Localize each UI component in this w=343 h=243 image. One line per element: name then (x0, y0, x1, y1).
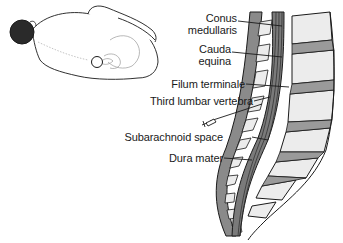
label-third-lumbar-vertebra: Third lumbar vertebra (150, 95, 253, 107)
label-cauda-equina: Cauda equina (199, 43, 231, 67)
label-cauda-line1: Cauda (199, 43, 231, 55)
lumbar-puncture-diagram: Conus medullaris Cauda equina Filum term… (0, 0, 343, 243)
label-cauda-line2: equina (199, 55, 231, 67)
label-conus-line1: Conus (188, 12, 237, 24)
label-conus-line2: medullaris (188, 24, 237, 36)
spine-cross-section-illustration (0, 0, 343, 243)
label-filum-terminale: Filum terminale (171, 78, 245, 90)
label-subarachnoid-space: Subarachnoid space (125, 131, 224, 143)
label-dura-mater: Dura mater (169, 152, 223, 164)
label-conus-medullaris: Conus medullaris (188, 12, 237, 36)
